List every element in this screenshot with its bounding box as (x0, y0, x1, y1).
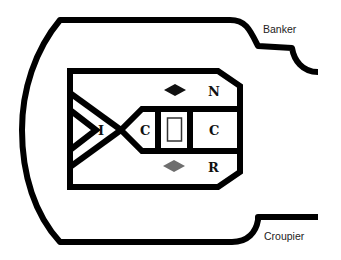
left-chevron (70, 110, 96, 150)
label-croupier: Croupier (264, 230, 305, 242)
table-diagram: N R C C I Banker Croupier (0, 0, 341, 260)
center-box (168, 118, 182, 141)
x-line-top (70, 93, 121, 130)
label-n: N (208, 84, 220, 99)
top-diamond-marker (164, 84, 186, 96)
label-r: R (208, 160, 219, 175)
label-c-left: C (140, 123, 150, 138)
bottom-diamond-marker (163, 160, 185, 172)
label-c-right: C (209, 123, 219, 138)
outer-table-outline (22, 20, 318, 242)
x-line-bottom (70, 130, 121, 167)
middle-band (121, 109, 240, 151)
label-banker: Banker (263, 23, 297, 35)
label-i: I (98, 123, 104, 138)
